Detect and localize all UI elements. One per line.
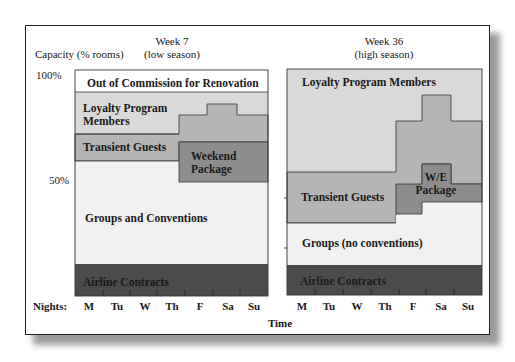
w7-weekend-label-2: Package	[191, 163, 232, 176]
w7-loyalty-label-2: Members	[83, 115, 130, 127]
w36-we-label-2: Package	[416, 184, 457, 197]
chart-svg: Capacity (% rooms) 100% 50% Week 7 (low …	[0, 0, 515, 362]
week36-panel: Loyalty Program Members Transient Guests…	[284, 69, 482, 295]
w36-day-label: F	[410, 300, 417, 312]
w7-groups-label: Groups and Conventions	[85, 212, 208, 225]
y-tick-100: 100%	[36, 69, 62, 81]
w7-day-label: F	[197, 300, 204, 312]
w36-transient-label: Transient Guests	[301, 191, 385, 203]
w7-day-label: Sa	[222, 300, 234, 312]
w7-loyalty-label-1: Loyalty Program	[83, 102, 168, 115]
week7-panel: Out of Commission for Renovation Loyalty…	[75, 70, 268, 296]
x-axis-label: Time	[268, 317, 292, 329]
w7-day-label: W	[140, 300, 151, 312]
w7-renovation-label: Out of Commission for Renovation	[87, 77, 259, 89]
w7-weekend-label-1: Weekend	[191, 150, 237, 162]
w36-airline-label: Airline Contracts	[300, 275, 386, 287]
w36-day-label: Tu	[323, 300, 335, 312]
w36-loyalty-label: Loyalty Program Members	[302, 76, 436, 89]
w7-day-label: Th	[165, 300, 178, 312]
w36-day-label: Su	[462, 300, 474, 312]
x-axis-prefix: Nights:	[33, 300, 67, 312]
week7-subtitle: (low season)	[144, 48, 200, 61]
w36-day-label: M	[297, 300, 308, 312]
w7-day-label: M	[84, 300, 95, 312]
w7-weekend-package-area	[179, 142, 268, 182]
w7-day-labels: M Tu W Th F Sa Su	[84, 300, 260, 312]
w7-transient-label: Transient Guests	[83, 141, 167, 153]
y-axis-label: Capacity (% rooms)	[35, 48, 124, 61]
w7-day-label: Tu	[111, 300, 123, 312]
week36-subtitle: (high season)	[355, 48, 414, 61]
week7-title: Week 7	[155, 35, 189, 47]
w36-day-label: Th	[378, 300, 391, 312]
w36-we-label-1: W/E	[425, 171, 448, 183]
w36-day-label: W	[352, 300, 363, 312]
w7-airline-label: Airline Contracts	[83, 276, 169, 288]
y-tick-50: 50%	[49, 174, 69, 186]
w36-groups-label: Groups (no conventions)	[302, 237, 423, 250]
w36-day-label: Sa	[435, 300, 447, 312]
week36-title: Week 36	[365, 35, 404, 47]
w7-day-label: Su	[248, 300, 260, 312]
w36-day-labels: M Tu W Th F Sa Su	[297, 300, 474, 312]
